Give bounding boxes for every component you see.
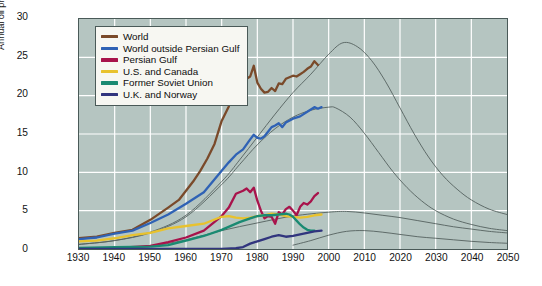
legend-item-label: Persian Gulf xyxy=(123,54,177,66)
legend-color-swatch xyxy=(101,81,118,84)
legend-color-swatch xyxy=(101,58,118,61)
legend-item-label: World xyxy=(123,31,148,43)
y-tick-label: 0 xyxy=(0,243,28,254)
legend-item-label: Former Soviet Union xyxy=(123,77,213,89)
legend-item[interactable]: Former Soviet Union xyxy=(101,77,239,89)
legend-item[interactable]: Persian Gulf xyxy=(101,54,239,66)
legend-item[interactable]: World xyxy=(101,31,239,43)
y-axis-title: Annual oil production (billions of barre… xyxy=(0,0,6,50)
projection-curve xyxy=(150,211,507,246)
series-line xyxy=(79,107,322,239)
y-tick-label: 15 xyxy=(0,127,28,138)
y-tick-label: 10 xyxy=(0,166,28,177)
oil-production-chart-figure: Annual oil production (billions of barre… xyxy=(0,0,542,286)
legend-item-label: U.K. and Norway xyxy=(123,89,197,101)
legend: WorldWorld outside Persian GulfPersian G… xyxy=(95,26,248,106)
y-tick-label: 25 xyxy=(0,50,28,61)
y-tick-label: 30 xyxy=(0,11,28,22)
legend-color-swatch xyxy=(101,93,118,96)
legend-color-swatch xyxy=(101,70,118,73)
x-tick-label: 2050 xyxy=(486,252,530,263)
legend-item[interactable]: U.S. and Canada xyxy=(101,66,239,78)
projection-curve xyxy=(293,231,507,246)
legend-item-label: World outside Persian Gulf xyxy=(123,43,239,55)
legend-item[interactable]: World outside Persian Gulf xyxy=(101,43,239,55)
legend-color-swatch xyxy=(101,47,118,50)
y-tick-label: 20 xyxy=(0,88,28,99)
legend-color-swatch xyxy=(101,35,118,38)
legend-item-label: U.S. and Canada xyxy=(123,66,198,78)
y-tick-label: 5 xyxy=(0,204,28,215)
legend-item[interactable]: U.K. and Norway xyxy=(101,89,239,101)
